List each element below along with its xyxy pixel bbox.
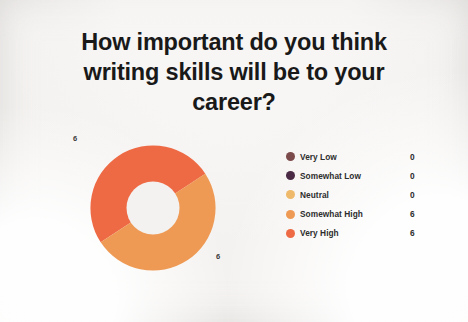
legend-item-label: Neutral — [300, 190, 410, 200]
legend-swatch-icon — [286, 171, 295, 180]
legend-item-value: 6 — [410, 209, 432, 219]
legend-item-label: Somewhat High — [300, 209, 410, 219]
slide-canvas: How important do you think writing skill… — [0, 0, 468, 322]
legend-item-label: Very High — [300, 228, 410, 238]
data-label-very-high: 6 — [73, 134, 77, 143]
doughnut-hole — [127, 182, 180, 235]
doughnut-chart — [82, 137, 224, 279]
legend-item-value: 6 — [410, 228, 432, 238]
page-title: How important do you think writing skill… — [18, 27, 450, 117]
legend-swatch-icon — [286, 152, 295, 161]
legend-item-value: 0 — [410, 171, 432, 181]
data-label-somewhat-high: 6 — [216, 252, 220, 261]
legend-item-somewhat-high[interactable]: Somewhat High 6 — [286, 205, 432, 224]
legend-item-somewhat-low[interactable]: Somewhat Low 0 — [286, 166, 432, 185]
doughnut-chart-svg — [82, 137, 224, 279]
legend-swatch-icon — [286, 210, 295, 219]
legend-item-value: 0 — [410, 190, 432, 200]
legend-swatch-icon — [286, 229, 295, 238]
legend-item-label: Very Low — [300, 152, 410, 162]
chart-legend: Very Low 0 Somewhat Low 0 Neutral 0 Some… — [286, 147, 432, 243]
legend-item-very-low[interactable]: Very Low 0 — [286, 147, 432, 166]
legend-item-neutral[interactable]: Neutral 0 — [286, 185, 432, 204]
legend-swatch-icon — [286, 190, 295, 199]
legend-item-value: 0 — [410, 152, 432, 162]
legend-item-label: Somewhat Low — [300, 171, 410, 181]
legend-item-very-high[interactable]: Very High 6 — [286, 224, 432, 243]
